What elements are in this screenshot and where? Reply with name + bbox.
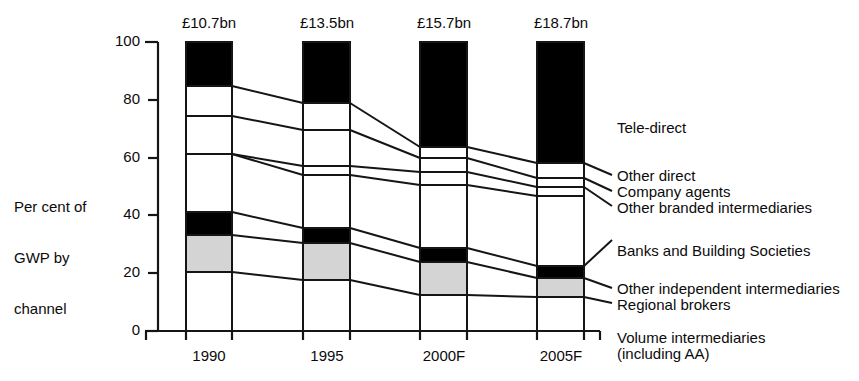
y-tick-label-40: 40 bbox=[104, 206, 140, 222]
legend-label-tele-direct: Tele-direct bbox=[617, 120, 686, 136]
legend-label-regional-brokers: Regional brokers bbox=[617, 297, 730, 313]
y-axis-title-line-3: channel bbox=[14, 300, 87, 317]
y-tick-label-80: 80 bbox=[104, 91, 140, 107]
y-axis bbox=[145, 42, 158, 331]
bar-total-label-2000F: £15.7bn bbox=[394, 15, 494, 31]
y-tick-label-0: 0 bbox=[104, 322, 140, 338]
y-axis-title-line-2: GWP by bbox=[14, 249, 87, 266]
legend-label-other-direct: Other direct bbox=[617, 168, 695, 184]
x-category-label-1990: 1990 bbox=[159, 348, 259, 364]
legend-label-company-agents: Company agents bbox=[617, 184, 730, 200]
y-tick-label-20: 20 bbox=[104, 264, 140, 280]
bar-total-label-1990: £10.7bn bbox=[159, 15, 259, 31]
y-axis-title-line-1: Per cent of bbox=[14, 198, 87, 215]
x-category-label-1995: 1995 bbox=[277, 348, 377, 364]
legend-label-volume-intermediaries: Volume intermediaries bbox=[617, 330, 765, 346]
legend-label-banks-and-building-societies: Banks and Building Societies bbox=[617, 243, 810, 259]
bar-total-label-2005F: £18.7bn bbox=[511, 15, 611, 31]
legend-label-other-independent-intermediaries: Other independent intermediaries bbox=[617, 281, 840, 297]
bar-1990 bbox=[186, 42, 232, 331]
legend-label-other-branded-intermediaries: Other branded intermediaries bbox=[617, 200, 812, 216]
y-axis-title: Per cent of GWP by channel bbox=[14, 164, 87, 351]
bar-2000F bbox=[420, 42, 467, 331]
bar-2005F bbox=[537, 42, 584, 331]
y-tick-label-100: 100 bbox=[104, 33, 140, 49]
legend-label-volume-intermediaries-sub: (including AA) bbox=[617, 346, 710, 362]
x-axis bbox=[146, 331, 600, 340]
x-category-label-2005F: 2005F bbox=[511, 348, 611, 364]
bar-total-label-1995: £13.5bn bbox=[277, 15, 377, 31]
bar-1995 bbox=[303, 42, 350, 331]
y-tick-label-60: 60 bbox=[104, 149, 140, 165]
x-category-label-2000F: 2000F bbox=[394, 348, 494, 364]
chart-page: 100 80 60 40 20 0 Per cent of GWP by cha… bbox=[0, 0, 859, 381]
